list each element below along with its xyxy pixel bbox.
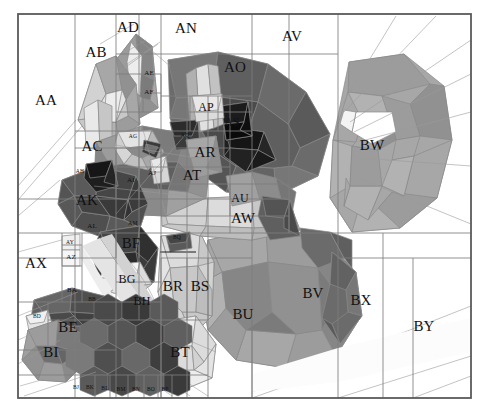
region-label-bo: BO	[147, 387, 155, 393]
region-label-by: BY	[413, 319, 434, 334]
region-label-be: BE	[58, 320, 78, 335]
region-label-bi: BI	[43, 345, 58, 360]
region-label-bv: BV	[302, 286, 323, 301]
region-label-aa: AA	[35, 93, 57, 108]
region-label-ax: AX	[25, 256, 47, 271]
region-label-bn: BN	[132, 387, 140, 393]
region-label-ah: AH	[76, 169, 84, 175]
region-label-ai: AI	[127, 177, 135, 184]
region-label-aq: AQ	[181, 133, 189, 139]
region-label-az: AZ	[66, 254, 76, 261]
region-label-ab: AB	[85, 45, 106, 60]
region-label-bk: BK	[86, 385, 94, 391]
region-label-bx: BX	[350, 293, 371, 308]
region-label-bu: BU	[232, 307, 253, 322]
region-label-ad: AD	[117, 20, 139, 35]
region-label-ay: AY	[66, 240, 74, 246]
region-label-bd: BD	[33, 314, 41, 320]
region-label-bl: BL	[101, 386, 108, 392]
region-label-br: BR	[163, 279, 183, 294]
region-label-ac: AC	[81, 139, 102, 154]
region-label-bg: BG	[118, 273, 135, 285]
region-label-bh: BH	[133, 295, 150, 307]
region-label-as: AS	[224, 116, 240, 128]
region-label-bw: BW	[360, 138, 385, 153]
region-label-av: AV	[282, 29, 302, 44]
region-label-au: AU	[231, 192, 249, 204]
region-label-bf: BF	[122, 236, 141, 251]
region-label-ak: AK	[76, 193, 98, 208]
region-label-ao: AO	[224, 60, 246, 75]
region-label-ap: AP	[198, 101, 214, 113]
region-label-at: AT	[183, 168, 202, 183]
region-label-bq: BQ	[173, 235, 181, 241]
region-label-an: AN	[175, 21, 197, 36]
region-label-bs: BS	[191, 279, 210, 294]
region-label-al: AL	[87, 223, 97, 230]
region-label-bj: BJ	[73, 385, 79, 391]
region-label-ae: AE	[144, 70, 154, 77]
region-label-af: AF	[144, 89, 153, 96]
region-label-bb: BB	[88, 297, 96, 303]
figure-canvas: AAABACADAEAFAGAHAIAJAKALAMANAOAPAQARASAT…	[0, 0, 489, 412]
region-label-ba: BA	[67, 287, 77, 294]
region-label-bm: BM	[117, 387, 126, 393]
region-label-bp: BP	[161, 387, 168, 393]
region-label-bt: BT	[170, 345, 190, 360]
region-label-aw: AW	[231, 211, 255, 226]
region-label-am: AM	[128, 221, 137, 227]
region-label-ar: AR	[194, 145, 215, 160]
region-label-ag: AG	[129, 134, 137, 140]
region-label-aj: AJ	[148, 170, 156, 177]
